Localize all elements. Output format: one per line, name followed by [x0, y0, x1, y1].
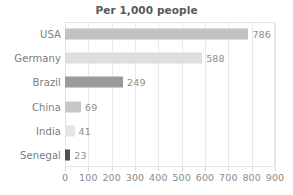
category-label-germany: Germany [14, 53, 61, 64]
bar-india[interactable] [65, 125, 75, 136]
tick-label-300: 300 [126, 172, 144, 183]
tick-mark-900 [275, 167, 276, 171]
bar-china[interactable] [65, 101, 81, 112]
category-label-india: India [36, 125, 61, 136]
tick-mark-100 [88, 167, 89, 171]
tick-label-200: 200 [102, 172, 120, 183]
category-label-usa: USA [40, 29, 61, 40]
bar-row[interactable]: Senegal23 [0, 143, 293, 167]
bar-track [65, 53, 275, 64]
tick-mark-500 [182, 167, 183, 171]
bar-track [65, 149, 275, 160]
bar-rows: USA786Germany588Brazil249China69India41S… [0, 22, 293, 167]
tick-label-600: 600 [196, 172, 214, 183]
value-label-germany: 588 [206, 53, 224, 64]
bar-senegal[interactable] [65, 149, 70, 160]
bar-brazil[interactable] [65, 77, 123, 88]
tick-label-400: 400 [149, 172, 167, 183]
bar-row[interactable]: USA786 [0, 22, 293, 46]
bar-germany[interactable] [65, 53, 202, 64]
tick-label-100: 100 [79, 172, 97, 183]
value-label-senegal: 23 [74, 149, 86, 160]
tick-label-0: 0 [62, 172, 68, 183]
bar-track [65, 77, 275, 88]
bar-row[interactable]: India41 [0, 119, 293, 143]
tick-mark-300 [135, 167, 136, 171]
tick-mark-600 [205, 167, 206, 171]
value-label-china: 69 [85, 101, 97, 112]
tick-label-900: 900 [266, 172, 284, 183]
value-label-usa: 786 [252, 29, 270, 40]
category-label-china: China [32, 101, 61, 112]
bar-row[interactable]: Brazil249 [0, 70, 293, 94]
chart-title: Per 1,000 people [0, 4, 293, 16]
tick-mark-800 [252, 167, 253, 171]
tick-label-700: 700 [219, 172, 237, 183]
value-label-india: 41 [79, 125, 91, 136]
bar-track [65, 29, 275, 40]
tick-label-800: 800 [242, 172, 260, 183]
tick-mark-200 [112, 167, 113, 171]
category-label-senegal: Senegal [20, 149, 61, 160]
x-axis-tick-labels: 0100200300400500600700800900 [0, 172, 293, 188]
bar-usa[interactable] [65, 29, 248, 40]
tick-mark-700 [228, 167, 229, 171]
bar-row[interactable]: Germany588 [0, 46, 293, 70]
category-label-brazil: Brazil [32, 77, 61, 88]
tick-mark-400 [158, 167, 159, 171]
bar-chart: Per 1,000 people USA786Germany588Brazil2… [0, 0, 293, 195]
bar-row[interactable]: China69 [0, 95, 293, 119]
tick-label-500: 500 [172, 172, 190, 183]
bar-track [65, 125, 275, 136]
tick-mark-0 [65, 167, 66, 171]
value-label-brazil: 249 [127, 77, 145, 88]
